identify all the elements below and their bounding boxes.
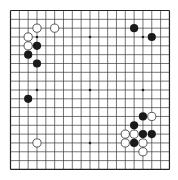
white-stone <box>51 24 59 32</box>
white-stone <box>139 148 147 156</box>
white-stone <box>33 24 41 32</box>
go-board[interactable] <box>0 0 178 180</box>
white-stone <box>139 139 147 147</box>
star-point <box>89 142 92 145</box>
black-stone <box>139 112 147 120</box>
go-board-grid[interactable] <box>0 0 178 180</box>
star-point <box>89 36 92 39</box>
black-stone <box>148 130 156 138</box>
black-stone <box>130 24 138 32</box>
star-point <box>142 89 145 92</box>
white-stone <box>24 33 32 41</box>
black-stone <box>33 42 41 50</box>
black-stone <box>139 130 147 138</box>
black-stone <box>24 95 32 103</box>
white-stone <box>33 139 41 147</box>
white-stone <box>148 112 156 120</box>
white-stone <box>24 42 32 50</box>
star-point <box>36 36 39 39</box>
white-stone <box>121 139 129 147</box>
black-stone <box>24 51 32 59</box>
star-point <box>142 36 145 39</box>
star-point <box>36 89 39 92</box>
white-stone <box>121 130 129 138</box>
black-stone <box>130 139 138 147</box>
black-stone <box>148 33 156 41</box>
black-stone <box>33 59 41 67</box>
black-stone <box>130 121 138 129</box>
white-stone <box>130 130 138 138</box>
star-point <box>89 89 92 92</box>
